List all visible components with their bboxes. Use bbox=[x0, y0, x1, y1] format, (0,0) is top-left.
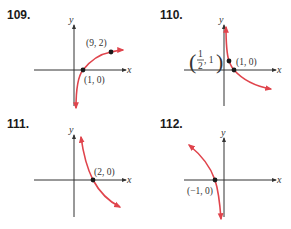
point-label-neg1-0: (−1, 0) bbox=[187, 186, 213, 197]
y-axis-label: y bbox=[68, 14, 74, 25]
svg-text:(: ( bbox=[189, 49, 196, 74]
point-label-1-0: (1, 0) bbox=[236, 57, 257, 68]
point-9-2 bbox=[109, 50, 114, 55]
x-axis-label: x bbox=[126, 64, 132, 75]
graph-111: x y (2, 0) bbox=[34, 124, 132, 217]
x-axis-label: x bbox=[276, 64, 282, 75]
graphs-canvas: x y (9, 2) (1, 0) x y ( 1 2 , 1 ) (1, 0)… bbox=[0, 0, 291, 229]
point-half-1 bbox=[227, 59, 232, 64]
graph-112: x y (−1, 0) bbox=[184, 127, 282, 219]
y-axis-label: y bbox=[220, 127, 226, 138]
point-2-0 bbox=[91, 178, 96, 183]
point-label-9-2: (9, 2) bbox=[86, 38, 107, 49]
svg-text:1: 1 bbox=[198, 49, 203, 59]
graph-110: x y ( 1 2 , 1 ) (1, 0) bbox=[184, 14, 282, 106]
point-label-1-0: (1, 0) bbox=[84, 75, 105, 86]
graph-109: x y (9, 2) (1, 0) bbox=[34, 14, 132, 108]
x-axis-label: x bbox=[126, 174, 132, 185]
point-label-2-0: (2, 0) bbox=[94, 167, 115, 178]
point-1-0 bbox=[232, 68, 237, 73]
svg-text:2: 2 bbox=[198, 61, 203, 71]
point-1-0 bbox=[81, 68, 86, 73]
y-axis-label: y bbox=[68, 124, 74, 135]
svg-text:): ) bbox=[216, 49, 223, 74]
x-axis-label: x bbox=[276, 174, 282, 185]
svg-text:, 1: , 1 bbox=[204, 55, 214, 65]
point-neg1-0 bbox=[213, 178, 218, 183]
y-axis-label: y bbox=[218, 14, 224, 25]
